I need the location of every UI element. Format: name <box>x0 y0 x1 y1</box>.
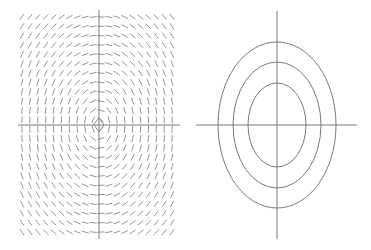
direction-segment <box>122 71 127 76</box>
direction-segment <box>84 136 87 142</box>
direction-segment <box>68 164 72 169</box>
direction-segment <box>164 107 165 113</box>
direction-segment <box>170 220 174 225</box>
direction-segment <box>90 222 96 223</box>
direction-segment <box>116 126 117 132</box>
direction-segment <box>29 79 31 85</box>
direction-segment <box>44 192 48 197</box>
direction-segment <box>138 211 143 216</box>
direction-segment <box>171 201 174 207</box>
direction-segment <box>36 220 40 225</box>
direction-segment <box>29 145 30 151</box>
direction-segment <box>130 24 135 28</box>
direction-segment <box>171 154 172 160</box>
direction-segment <box>123 145 126 151</box>
direction-segment <box>51 220 56 224</box>
direction-segment <box>138 221 143 225</box>
direction-segment <box>106 35 112 36</box>
direction-segment <box>147 79 150 85</box>
direction-segment <box>131 89 134 95</box>
direction-segment <box>29 163 31 169</box>
direction-segment <box>45 154 47 160</box>
direction-segment <box>52 164 55 170</box>
direction-segment <box>122 62 127 66</box>
direction-segment <box>20 24 23 30</box>
direction-segment <box>69 107 71 113</box>
direction-segment <box>124 135 126 141</box>
direction-segment <box>154 220 158 225</box>
direction-segment <box>75 80 80 85</box>
direction-segment <box>82 62 88 65</box>
direction-segment <box>130 34 135 38</box>
direction-segment <box>154 211 158 216</box>
direction-segment <box>91 108 96 112</box>
direction-segment <box>84 108 87 114</box>
direction-segment <box>21 192 24 198</box>
direction-segment <box>77 117 78 123</box>
direction-segment <box>28 211 31 217</box>
direction-segment <box>147 70 150 76</box>
direction-segment <box>67 173 71 178</box>
direction-segment <box>29 98 30 104</box>
direction-segment <box>138 192 142 197</box>
direction-segment <box>170 229 174 234</box>
direction-segment <box>148 98 150 104</box>
direction-segment <box>37 145 38 151</box>
direction-segment <box>146 15 151 19</box>
direction-segment <box>75 193 80 197</box>
direction-segment <box>75 155 79 160</box>
direction-segment <box>155 52 158 58</box>
direction-segment <box>170 14 174 19</box>
direction-segment <box>162 24 166 29</box>
direction-segment <box>131 71 135 76</box>
direction-segment <box>131 154 134 160</box>
direction-segment <box>131 164 134 170</box>
direction-segment <box>164 145 165 151</box>
direction-segment <box>147 173 150 179</box>
direction-segment <box>45 164 47 170</box>
direction-segment <box>37 89 39 95</box>
direction-segment <box>122 221 128 224</box>
direction-segment <box>20 14 24 19</box>
direction-segment <box>139 89 141 95</box>
direction-segment <box>51 24 56 28</box>
direction-segment <box>67 61 72 66</box>
direction-segment <box>36 230 40 235</box>
direction-segment <box>155 70 158 76</box>
direction-segment <box>163 89 165 95</box>
direction-segment <box>155 182 158 188</box>
direction-segment <box>171 51 174 57</box>
direction-segment <box>106 231 112 232</box>
direction-segment <box>60 154 63 160</box>
direction-segment <box>21 70 23 76</box>
direction-segment <box>130 52 135 57</box>
direction-segment <box>108 126 109 132</box>
direction-segment <box>122 16 128 19</box>
direction-segment <box>171 42 174 48</box>
direction-segment <box>114 174 119 178</box>
direction-segment <box>130 211 135 215</box>
direction-segment <box>155 154 157 160</box>
direction-segment <box>147 61 150 67</box>
direction-segment <box>51 211 55 216</box>
direction-segment <box>114 25 120 27</box>
direction-segment <box>37 154 39 160</box>
direction-segment <box>59 15 64 19</box>
direction-segment <box>68 80 72 85</box>
direction-segment <box>122 174 127 179</box>
direction-segment <box>21 173 23 179</box>
direction-segment <box>30 135 31 141</box>
direction-segment <box>122 34 128 37</box>
direction-segment <box>68 145 70 151</box>
direction-segment <box>59 24 64 28</box>
direction-segment <box>90 54 96 55</box>
direction-segment <box>163 154 165 160</box>
level-curves-panel <box>196 11 357 239</box>
direction-segment <box>36 192 39 198</box>
direction-segment <box>44 220 48 225</box>
direction-segment <box>106 63 112 65</box>
direction-segment <box>60 80 63 86</box>
direction-segment <box>156 145 157 151</box>
direction-segment <box>106 213 112 214</box>
direction-segment <box>90 72 96 73</box>
